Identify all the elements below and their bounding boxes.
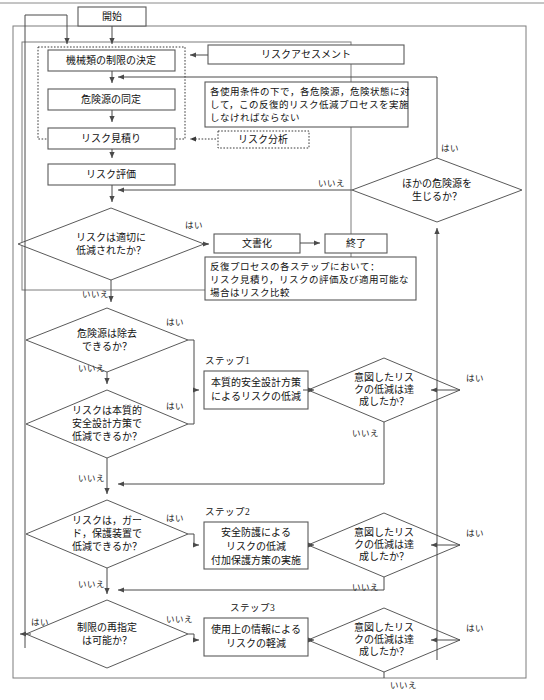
edge-label-riskreduced-no: いいえ — [82, 289, 109, 299]
node-risk-evaluation-label: リスク評価 — [86, 168, 136, 180]
node-risk-analysis-label: リスク分析 — [238, 133, 288, 145]
decision-intended-3-line3: 成したか？ — [359, 646, 409, 657]
edge-respecify-no — [188, 634, 199, 640]
edge-label-inherentdesign-no: いいえ — [78, 473, 105, 483]
edge-hazardremovable-yes — [188, 340, 199, 390]
decision-inherent-design-line1: リスクは本質的 — [72, 404, 142, 416]
node-end-label: 終了 — [346, 237, 366, 249]
node-risk-assessment-label: リスクアセスメント — [261, 49, 351, 60]
decision-guards-line2: ド，保護装置で — [72, 527, 142, 539]
node-step1-line1: 本質的安全設計方策 — [211, 376, 301, 388]
edge-label-inherentdesign-yes: はい — [166, 401, 184, 411]
edge-label-intended3-yes: はい — [466, 623, 484, 633]
step1-label: ステップ1 — [205, 356, 250, 366]
decision-guards-line1: リスクは，ガー — [72, 515, 142, 526]
flowchart-canvas: 開始 機械類の制限の決定 危険源の同定 リスク見積り リスク評価 リスクアセスメ… — [0, 0, 544, 700]
node-step2-line1: 安全防護による — [221, 526, 291, 538]
decision-intended-2-line3: 成したか？ — [359, 551, 409, 562]
decision-hazard-removable-line1: 危険源は除去 — [77, 327, 137, 339]
note-iterative-line2: して，この反復的リスク低減プロセスを実施 — [210, 99, 409, 110]
decision-intended-3-line1: 意図したリス — [354, 621, 414, 633]
decision-respecify-limits-line2: は可能か？ — [82, 634, 132, 646]
decision-respecify-limits-line1: 制限の再指定 — [77, 621, 137, 633]
decision-inherent-design-line2: 安全設計方策で — [72, 417, 142, 429]
decision-risk-reduced — [18, 208, 204, 280]
decision-intended-1-line1: 意図したリス — [354, 371, 414, 383]
note-iterative-line1: 各使用条件の下で，各危険源，危険状態に対 — [210, 86, 410, 97]
node-start-label: 開始 — [102, 10, 122, 22]
edge-inherentdesign-yes — [188, 390, 194, 424]
note-each-step-line3: 場合はリスク比較 — [210, 287, 290, 298]
node-determine-limits-label: 機械類の制限の決定 — [66, 54, 156, 66]
decision-intended-1-line2: クの低減は達 — [354, 383, 414, 395]
edge-label-hazardremovable-yes: はい — [166, 317, 184, 327]
decision-intended-1-line3: 成したか？ — [359, 396, 409, 407]
decision-other-hazards — [352, 158, 522, 222]
edge-label-otherhazards-no: いいえ — [318, 178, 345, 188]
node-step3-line1: 使用上の情報による — [211, 623, 301, 635]
edge-return-to-limits — [25, 15, 67, 44]
edge-label-intended3-no: いいえ — [390, 680, 417, 690]
node-step2-line2: リスクの低減 — [226, 540, 286, 552]
edge-label-guards-no: いいえ — [78, 579, 105, 589]
node-step2-line3: 付加保護方策の実施 — [211, 554, 301, 566]
edge-guards-yes — [188, 534, 199, 545]
decision-intended-2-line1: 意図したリス — [354, 526, 414, 538]
flowchart-svg: 開始 機械類の制限の決定 危険源の同定 リスク見積り リスク評価 リスクアセスメ… — [0, 0, 544, 700]
edge-label-respecify-no: いいえ — [166, 614, 193, 624]
decision-hazard-removable-line2: できるか？ — [82, 341, 132, 352]
node-hazard-identification-label: 危険源の同定 — [81, 93, 141, 105]
node-step1-line2: によるリスクの低減 — [211, 390, 301, 402]
edge-label-intended2-no: いいえ — [352, 582, 379, 592]
decision-guards-line3: 低減できるか？ — [72, 540, 142, 552]
decision-intended-3-line2: クの低減は達 — [354, 633, 414, 645]
node-step3-line2: リスクの軽減 — [226, 637, 286, 649]
edge-label-intended1-yes: はい — [466, 373, 484, 383]
edge-intended2-no — [118, 577, 384, 590]
decision-risk-reduced-line1: リスクは適切に — [76, 231, 146, 243]
note-iterative-line3: しなければならない — [210, 113, 300, 123]
decision-other-hazards-line2: 生じるか？ — [412, 190, 462, 202]
node-risk-estimation-label: リスク見積り — [81, 132, 141, 144]
edge-label-hazardremovable-no: いいえ — [78, 363, 105, 373]
decision-other-hazards-line1: ほかの危険源を — [402, 177, 472, 189]
node-documentation-label: 文書化 — [242, 237, 272, 249]
decision-respecify-limits — [26, 600, 188, 668]
edge-label-intended1-no: いいえ — [352, 428, 379, 438]
decision-risk-reduced-line2: 低減されたか？ — [76, 244, 146, 256]
step3-label: ステップ3 — [230, 603, 275, 613]
edge-label-intended2-yes: はい — [466, 528, 484, 538]
decision-inherent-design-line3: 低減できるか？ — [72, 430, 142, 442]
edge-label-respecify-yes: はい — [31, 617, 49, 627]
note-each-step-line2: リスク見積り，リスクの評価及び適用可能な — [210, 274, 409, 285]
decision-intended-2-line2: クの低減は達 — [354, 538, 414, 550]
edge-label-guards-yes: はい — [166, 513, 184, 523]
step2-label: ステップ2 — [205, 507, 250, 517]
edge-label-otherhazards-yes: はい — [441, 143, 459, 153]
decision-hazard-removable — [26, 308, 188, 372]
note-each-step-line1: 反復プロセスの各ステップにおいて： — [210, 261, 380, 272]
edge-label-riskreduced-yes: はい — [185, 220, 203, 230]
